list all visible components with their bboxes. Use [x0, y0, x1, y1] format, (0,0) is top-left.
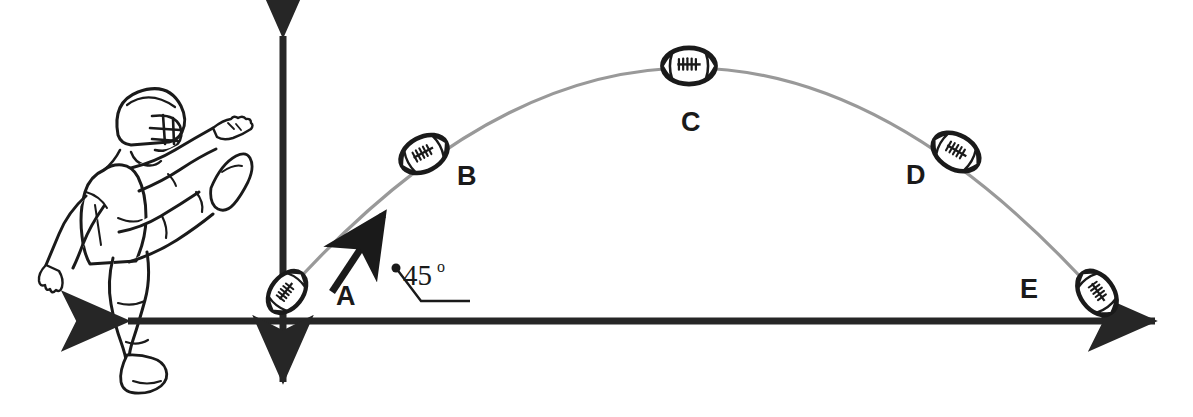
- projectile-motion-figure: 45 o A B C D E: [0, 0, 1193, 417]
- football-icon: [394, 127, 454, 180]
- football-icon: [926, 125, 986, 179]
- football-icon: [663, 48, 716, 84]
- football-player-illustration: [39, 89, 253, 393]
- launch-angle-label: 45 o: [403, 258, 445, 291]
- ball-position-d: [926, 125, 986, 179]
- point-label-d: D: [906, 160, 926, 190]
- ball-position-b: [394, 127, 454, 180]
- coordinate-axes: [128, 36, 1155, 382]
- point-label-e: E: [1020, 274, 1038, 304]
- point-label-c: C: [681, 107, 701, 137]
- launch-angle-value: 45: [403, 259, 432, 291]
- figure-canvas: 45 o A B C D E: [0, 0, 1193, 417]
- point-label-b: B: [457, 161, 477, 191]
- point-label-a: A: [336, 281, 356, 311]
- ball-position-c: [663, 48, 716, 84]
- degree-symbol: o: [437, 258, 445, 275]
